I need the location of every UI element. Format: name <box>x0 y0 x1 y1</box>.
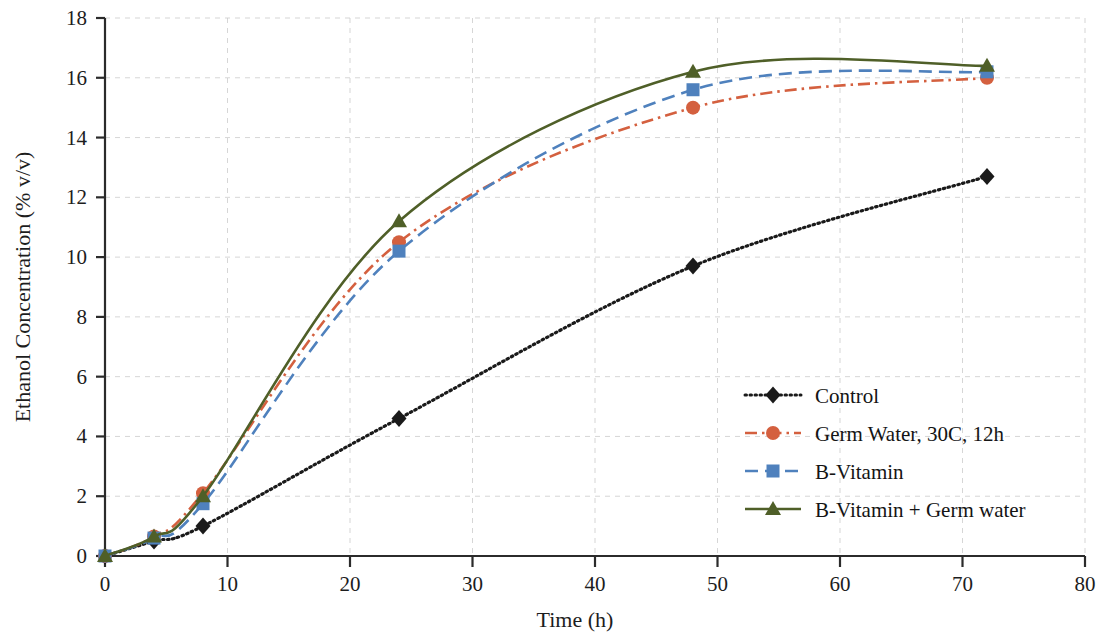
y-tick-label: 4 <box>77 424 88 448</box>
series-3 <box>99 65 994 562</box>
y-tick-label: 8 <box>77 305 88 329</box>
x-tick-label: 0 <box>100 572 111 596</box>
x-tick-label: 70 <box>952 572 973 596</box>
data-marker-diamond <box>686 258 701 275</box>
axes <box>96 18 1085 567</box>
legend-label: Germ Water, 30C, 12h <box>815 422 1004 446</box>
data-marker-square <box>767 465 780 478</box>
series-4 <box>97 58 995 562</box>
x-tick-label: 30 <box>462 572 483 596</box>
data-marker-circle <box>766 426 780 440</box>
gridlines <box>105 18 1085 556</box>
x-tick-label: 10 <box>217 572 238 596</box>
x-tick-label: 60 <box>830 572 851 596</box>
data-marker-diamond <box>980 168 995 185</box>
y-tick-label: 14 <box>66 126 88 150</box>
x-tick-label: 80 <box>1075 572 1096 596</box>
legend-label: B-Vitamin <box>815 460 904 484</box>
legend-item-3: B-Vitamin <box>745 460 904 484</box>
data-marker-diamond <box>196 518 211 535</box>
x-tick-label: 20 <box>340 572 361 596</box>
data-marker-square <box>393 245 406 258</box>
legend-item-1: Control <box>745 384 879 408</box>
chart-container: 02468101214161801020304050607080 Control… <box>0 0 1109 637</box>
y-tick-label: 0 <box>77 544 88 568</box>
x-tick-label: 40 <box>585 572 606 596</box>
y-axis-title: Ethanol Concentration (% v/v) <box>10 152 35 423</box>
y-tick-label: 2 <box>77 484 88 508</box>
data-series <box>97 58 995 565</box>
legend-item-2: Germ Water, 30C, 12h <box>745 422 1004 446</box>
y-tick-label: 18 <box>66 6 87 30</box>
x-tick-label: 50 <box>707 572 728 596</box>
legend-item-4: B-Vitamin + Germ water <box>745 498 1026 522</box>
y-tick-label: 12 <box>66 185 87 209</box>
data-marker-diamond <box>766 387 781 404</box>
y-tick-label: 6 <box>77 365 88 389</box>
x-axis-title: Time (h) <box>537 607 614 632</box>
legend-label: Control <box>815 384 879 408</box>
chart-legend: ControlGerm Water, 30C, 12hB-VitaminB-Vi… <box>745 384 1026 522</box>
line-chart: 02468101214161801020304050607080 Control… <box>0 0 1109 637</box>
data-marker-circle <box>686 101 700 115</box>
y-tick-label: 10 <box>66 245 87 269</box>
y-tick-label: 16 <box>66 66 87 90</box>
data-marker-square <box>687 83 700 96</box>
legend-label: B-Vitamin + Germ water <box>815 498 1026 522</box>
data-marker-diamond <box>392 410 407 427</box>
